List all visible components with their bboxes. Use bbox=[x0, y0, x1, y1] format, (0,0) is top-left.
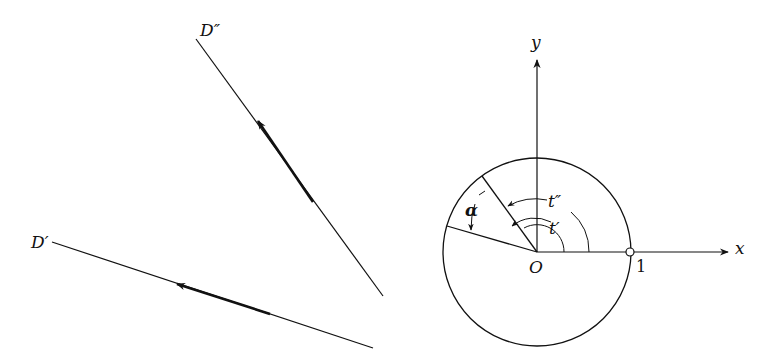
diagram-canvas bbox=[0, 0, 766, 364]
label-t-double-prime: t″ bbox=[548, 193, 561, 210]
label-x-axis: x bbox=[735, 240, 745, 257]
label-d-double-prime: D″ bbox=[200, 22, 220, 39]
label-t-prime: t′ bbox=[549, 220, 560, 237]
label-unit-one: 1 bbox=[636, 259, 646, 275]
label-alpha: α bbox=[465, 202, 478, 219]
label-y-axis: y bbox=[531, 34, 541, 51]
ray-t-double-prime bbox=[482, 176, 537, 252]
arc-t-double-prime-arrow bbox=[508, 199, 547, 206]
arc-alpha-top bbox=[479, 191, 485, 195]
label-origin: O bbox=[529, 259, 543, 276]
label-d-prime: D′ bbox=[31, 234, 49, 251]
arc-t-double-prime bbox=[571, 212, 589, 252]
line-d-double-prime bbox=[196, 39, 383, 296]
unit-circle-figure bbox=[443, 60, 728, 346]
line-d-prime bbox=[52, 242, 373, 348]
ray-t-prime-end bbox=[447, 226, 537, 252]
unit-point bbox=[626, 248, 634, 256]
